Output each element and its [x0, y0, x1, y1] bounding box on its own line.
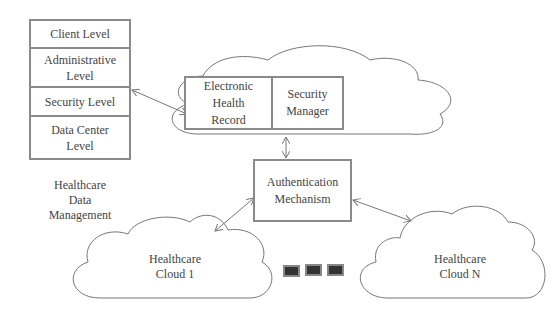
healthcare-cloud-1-label: Healthcare Cloud 1	[125, 252, 225, 282]
data-center-level-box: Data Center Level	[29, 115, 131, 160]
diagram-canvas: Client Level Administrative Level Securi…	[0, 0, 556, 318]
ellipsis-dot-2	[305, 264, 322, 276]
ellipsis-dot-1	[283, 265, 300, 277]
security-manager-box: Security Manager	[271, 76, 344, 130]
ellipsis-dot-3	[327, 264, 344, 276]
client-level-box: Client Level	[29, 19, 131, 49]
electronic-health-record-box: Electronic Health Record	[184, 76, 273, 130]
administrative-level-box: Administrative Level	[29, 47, 131, 88]
security-level-box: Security Level	[29, 86, 131, 117]
healthcare-cloud-n-label: Healthcare Cloud N	[410, 252, 510, 282]
authentication-mechanism-box: Authentication Mechanism	[253, 159, 352, 222]
healthcare-data-management-caption: Healthcare Data Management	[30, 178, 130, 223]
